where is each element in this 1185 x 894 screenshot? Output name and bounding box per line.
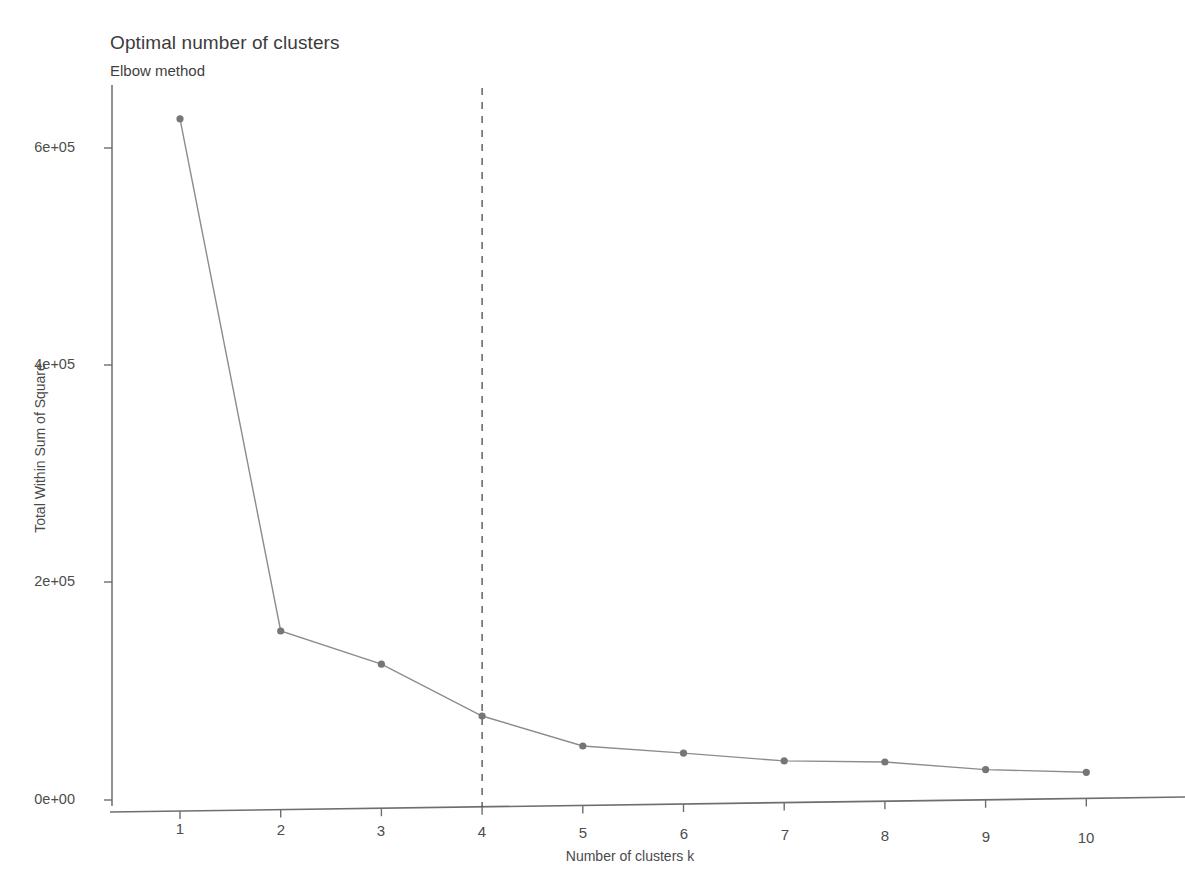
elbow-method-chart: Optimal number of clusters Elbow method … <box>0 0 1185 894</box>
plot-canvas <box>0 0 1185 894</box>
data-point-k5 <box>579 742 586 749</box>
elbow-curve-line <box>180 119 1086 773</box>
data-point-k10 <box>1083 769 1090 776</box>
data-point-k8 <box>881 758 888 765</box>
data-point-k4 <box>479 712 486 719</box>
data-point-k1 <box>176 115 183 122</box>
data-point-k6 <box>680 750 687 757</box>
elbow-curve-markers <box>176 115 1090 776</box>
data-point-k2 <box>277 627 284 634</box>
data-point-k3 <box>378 661 385 668</box>
data-point-k7 <box>781 757 788 764</box>
data-point-k9 <box>982 766 989 773</box>
x-axis-spine <box>110 797 1185 812</box>
y-axis-ticks <box>104 148 112 800</box>
